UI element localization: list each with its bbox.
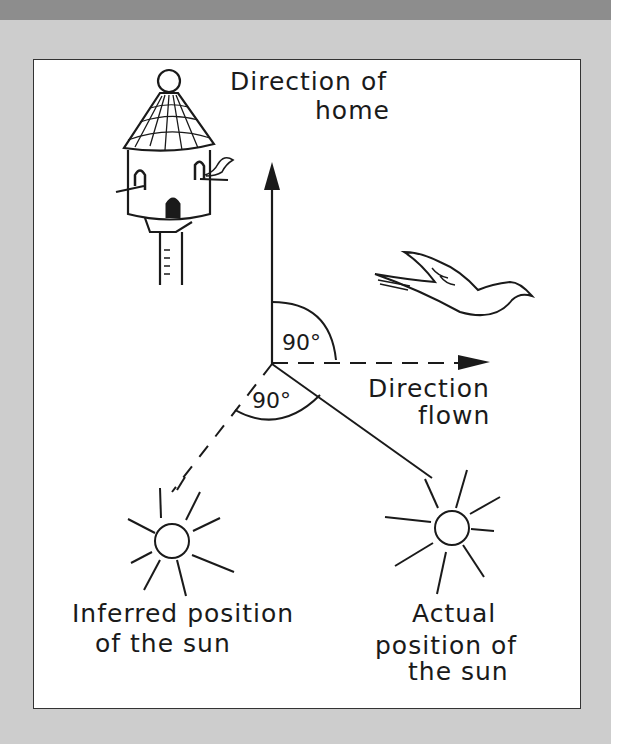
sun-icon-inferred — [128, 477, 234, 596]
actual-label-line1: Actual — [412, 599, 496, 628]
arrow-up-icon — [264, 162, 280, 190]
flying-pigeon-icon — [375, 252, 532, 315]
angle-lower-label: 90° — [252, 388, 291, 413]
pigeon-navigation-diagram: 90° 90° Direction of home D — [0, 0, 621, 744]
home-label-line1: Direction of — [230, 67, 387, 96]
actual-label-line3: the sun — [408, 657, 509, 686]
flown-label-line2: flown — [418, 401, 490, 430]
inferred-sun-line — [172, 364, 272, 492]
inferred-label-line1: Inferred position — [72, 599, 294, 628]
home-label-line2: home — [315, 96, 390, 125]
actual-label-line2: position of — [375, 631, 517, 660]
sun-icon-actual — [385, 470, 500, 594]
arrow-right-icon — [458, 355, 490, 370]
angle-upper-label: 90° — [282, 330, 321, 355]
dovecote-icon — [116, 70, 233, 285]
inferred-label-line2: of the sun — [95, 629, 231, 658]
flown-label-line1: Direction — [368, 374, 490, 403]
